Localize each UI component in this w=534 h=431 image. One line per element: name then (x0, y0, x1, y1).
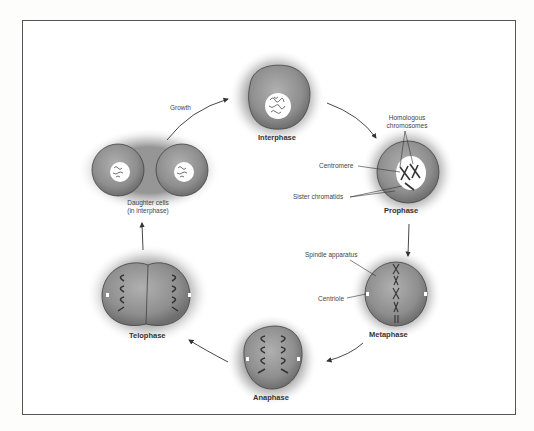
label-centriole: Centriole (318, 295, 344, 303)
label-homologous-line2: chromosomes (381, 122, 433, 130)
interphase-cell (229, 49, 325, 145)
centriole-right (424, 292, 427, 296)
label-interphase: Interphase (258, 133, 296, 142)
label-daughter-line2: (in interphase) (122, 207, 174, 215)
label-homologous-chromosomes: Homologous chromosomes (381, 114, 433, 130)
prophase-cell (361, 125, 455, 219)
label-prophase: Prophase (384, 206, 418, 215)
telophase-cell (86, 244, 210, 344)
label-daughter-line1: Daughter cells (122, 199, 174, 207)
arrow-to-prophase (327, 103, 376, 138)
label-growth: Growth (170, 104, 191, 112)
label-telophase: Telophase (129, 331, 166, 340)
nucleus (265, 93, 291, 119)
label-anaphase: Anaphase (253, 393, 289, 402)
label-metaphase: Metaphase (369, 330, 408, 339)
arrow-to-telophase (189, 340, 228, 362)
label-homologous-line1: Homologous (381, 114, 433, 122)
label-spindle-apparatus: Spindle apparatus (305, 251, 357, 259)
mitosis-diagram (0, 0, 534, 431)
metaphase-cell (350, 248, 442, 340)
label-centromere: Centromere (319, 162, 353, 170)
centriole-left (366, 292, 369, 296)
label-daughter-cells: Daughter cells (in interphase) (122, 199, 174, 215)
label-sister-chromatids: Sister chromatids (293, 193, 343, 201)
arrow-to-anaphase (327, 343, 363, 361)
